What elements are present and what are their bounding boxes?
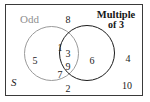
set-label-multiple-line2: of 3	[88, 20, 144, 31]
element-10: 10	[118, 81, 136, 91]
element-8: 8	[61, 15, 75, 25]
set-label-multiple-of-3: Multiple of 3	[88, 9, 144, 31]
element-5: 5	[28, 56, 42, 66]
element-4: 4	[121, 54, 135, 64]
element-3: 3	[61, 49, 75, 59]
universal-set-label: S	[11, 77, 17, 88]
set-label-odd: Odd	[20, 14, 39, 25]
element-9: 9	[61, 62, 75, 72]
venn-diagram-figure: Odd Multiple of 3 S 1 5 7 3 9 6 8 2 4 10	[0, 0, 150, 102]
element-6: 6	[85, 56, 99, 66]
element-2: 2	[61, 84, 75, 94]
